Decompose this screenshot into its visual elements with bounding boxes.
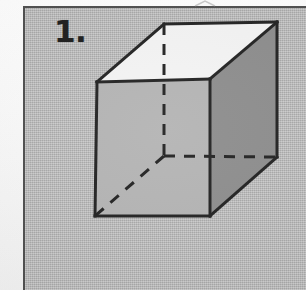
cube-figure — [0, 0, 306, 290]
edge-back-top — [164, 22, 277, 24]
edge-front-left — [95, 82, 97, 216]
cube-front-face — [95, 79, 210, 216]
worksheet-page: 1. — [0, 0, 306, 290]
